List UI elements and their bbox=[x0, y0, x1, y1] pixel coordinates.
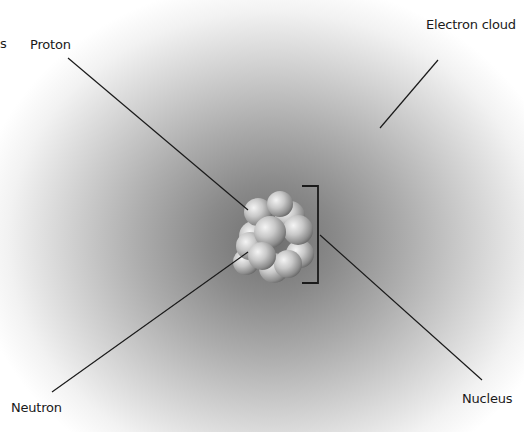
nucleus-label: Nucleus bbox=[462, 391, 512, 406]
atom-diagram bbox=[0, 0, 524, 432]
neutron-leader-line bbox=[52, 252, 248, 392]
nucleus-particles bbox=[233, 191, 314, 283]
electron-cloud-leader-line bbox=[380, 60, 438, 128]
nucleus-leader-line bbox=[320, 235, 482, 380]
proton-leader-line bbox=[68, 58, 248, 210]
proton-label: Proton bbox=[30, 37, 71, 52]
cut-off-text: s bbox=[0, 36, 7, 51]
electron-cloud-label: Electron cloud bbox=[426, 17, 516, 32]
neutron-label: Neutron bbox=[11, 400, 62, 415]
